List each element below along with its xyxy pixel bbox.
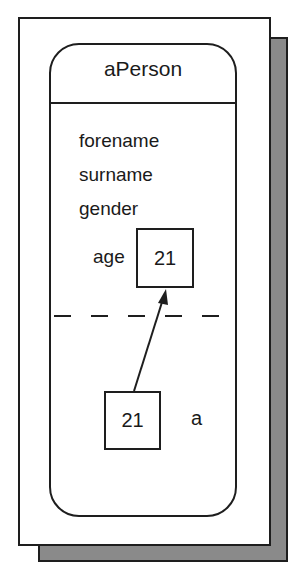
local-variable-value: 21 <box>121 409 143 432</box>
reference-arrow-line <box>134 299 163 391</box>
diagram-lines <box>0 0 299 582</box>
arrowhead-icon <box>158 289 168 305</box>
local-variable-name: a <box>191 407 202 430</box>
local-variable-box: 21 <box>104 391 161 450</box>
